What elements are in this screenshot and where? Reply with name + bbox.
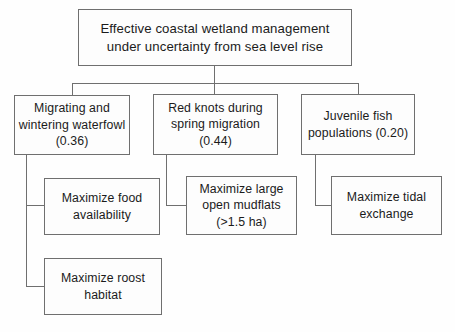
attribute-node-tidal-exchange: Maximize tidal exchange <box>331 176 442 235</box>
attribute-node-label: Maximize roost habitat <box>45 270 161 303</box>
connector-distribution-bus <box>72 83 359 84</box>
attribute-node-food-availability: Maximize food availability <box>44 178 160 235</box>
objective-node-juvenile-fish: Juvenile fish populations (0.20) <box>301 94 415 155</box>
attribute-node-roost-habitat: Maximize roost habitat <box>44 258 162 315</box>
attribute-node-label: Maximize large open mudflats (>1.5 ha) <box>187 181 296 230</box>
objective-node-label: Red knots during spring migration (0.44) <box>154 100 277 149</box>
connector-obj-1-spine <box>26 155 27 287</box>
objective-node-waterfowl: Migrating and wintering waterfowl (0.36) <box>14 95 130 155</box>
objectives-hierarchy-diagram: Effective coastal wetland management und… <box>0 0 455 332</box>
connector-obj-3-to-attr-tidal <box>315 205 332 206</box>
objective-node-label: Migrating and wintering waterfowl (0.36) <box>15 100 129 149</box>
attribute-node-label: Maximize tidal exchange <box>332 189 441 222</box>
connector-goal-stem <box>214 66 215 84</box>
objective-node-red-knots: Red knots during spring migration (0.44) <box>153 94 278 155</box>
goal-node-label: Effective coastal wetland management und… <box>79 20 351 55</box>
objective-node-label: Juvenile fish populations (0.20) <box>302 108 414 141</box>
connector-obj-2-to-attr-mudflats <box>166 205 187 206</box>
connector-obj-2-spine <box>166 155 167 206</box>
attribute-node-label: Maximize food availability <box>45 190 159 223</box>
goal-node: Effective coastal wetland management und… <box>78 9 352 66</box>
connector-obj-1-to-attr-roost <box>26 286 45 287</box>
attribute-node-open-mudflats: Maximize large open mudflats (>1.5 ha) <box>186 176 297 235</box>
connector-obj-3-spine <box>315 155 316 206</box>
connector-obj-1-to-attr-food <box>26 205 45 206</box>
